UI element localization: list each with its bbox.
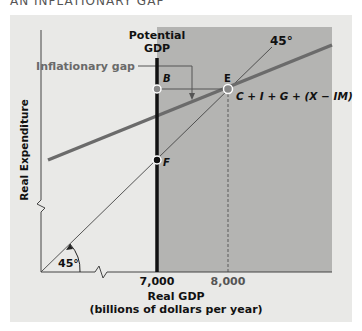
point-f <box>153 156 161 164</box>
inflationary-gap-label: Inflationary gap <box>36 60 135 73</box>
xlabel-line2: (billions of dollars per year) <box>89 303 262 316</box>
point-f-label: F <box>163 157 170 168</box>
forty-five-top-label: 45° <box>270 34 293 48</box>
point-e <box>224 85 233 94</box>
point-b-label: B <box>163 73 171 84</box>
potential-label-1: Potential <box>129 29 185 42</box>
xlabel-line1: Real GDP <box>147 290 204 303</box>
xtick-8000: 8,000 <box>211 275 246 288</box>
expenditure-equation-label: C + I + G + (X − IM) <box>236 90 353 102</box>
chart-svg: Potential GDP Inflationary gap B E F 45°… <box>0 0 362 331</box>
point-e-label: E <box>224 73 231 84</box>
xtick-7000: 7,000 <box>140 275 175 288</box>
forty-five-bottom-label: 45° <box>58 257 79 270</box>
point-b <box>153 85 161 93</box>
inflation-shaded-region <box>157 27 332 272</box>
ylabel: Real Expenditure <box>18 99 30 201</box>
potential-label-2: GDP <box>144 42 170 55</box>
